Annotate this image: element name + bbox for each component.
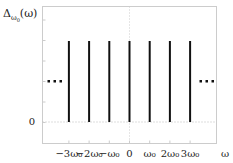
y-axis-label: Δω0(ω): [3, 7, 37, 23]
y-tick-label-0: 0: [29, 116, 35, 127]
continuation-dot-left-1: [54, 80, 57, 83]
continuation-dot-right-1: [206, 80, 209, 83]
x-axis-label: ω: [221, 148, 229, 159]
continuation-dot-right-0: [200, 80, 203, 83]
x-tick-label-3: 0: [126, 148, 132, 159]
x-tick-label-5: 2ω₀: [161, 148, 180, 159]
x-tick-label-2: −ω₀: [99, 148, 120, 159]
x-tick-label-6: 3ω₀: [181, 148, 200, 159]
chart: Δω0(ω) ω 0 −3ω₀−2ω₀−ω₀0ω₀2ω₀3ω₀: [0, 0, 233, 163]
continuation-dot-left-0: [48, 80, 51, 83]
x-tick-label-4: ω₀: [144, 148, 156, 159]
continuation-dot-left-2: [60, 80, 63, 83]
continuation-dot-right-2: [212, 80, 215, 83]
